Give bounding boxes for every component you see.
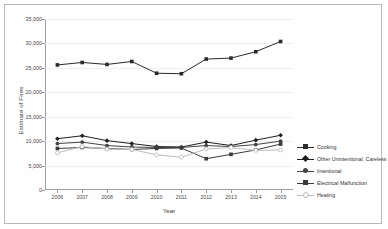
x-tick-label: 2014 xyxy=(250,194,262,200)
y-tick-mark xyxy=(42,190,45,191)
legend-label: Other Unintentional, Careless xyxy=(317,156,386,162)
y-tick-label: 35,000 xyxy=(26,16,43,22)
x-tick-mark xyxy=(281,190,282,193)
x-tick-label: 2013 xyxy=(225,194,237,200)
y-tick-label: 15,000 xyxy=(26,114,43,120)
x-tick-label: 2015 xyxy=(275,194,287,200)
y-tick-label: 30,000 xyxy=(26,40,43,46)
legend-marker-icon xyxy=(297,167,314,176)
legend-marker-icon xyxy=(297,179,314,188)
x-tick-label: 2012 xyxy=(200,194,212,200)
x-tick-mark xyxy=(256,190,257,193)
chart-legend: CookingOther Unintentional, CarelessInte… xyxy=(297,141,388,201)
legend-item[interactable]: Intentional xyxy=(297,165,388,177)
legend-item[interactable]: Cooking xyxy=(297,141,388,153)
series-1 xyxy=(56,40,283,76)
legend-marker-icon xyxy=(297,155,314,164)
x-tick-label: 2010 xyxy=(151,194,163,200)
x-tick-mark xyxy=(181,190,182,193)
legend-item[interactable]: Heating xyxy=(297,189,388,201)
x-tick-label: 2011 xyxy=(176,194,187,200)
x-tick-mark xyxy=(157,190,158,193)
y-axis-title: Estimate of Fires xyxy=(9,59,21,169)
x-tick-label: 2006 xyxy=(52,194,64,200)
x-tick-mark xyxy=(82,190,83,193)
legend-label: Heating xyxy=(317,192,335,198)
x-tick-mark xyxy=(132,190,133,193)
y-tick-label: 25,000 xyxy=(26,65,43,71)
legend-label: Electrical Malfunction xyxy=(317,180,367,186)
legend-item[interactable]: Other Unintentional, Careless xyxy=(297,153,388,165)
x-tick-label: 2008 xyxy=(101,194,113,200)
y-tick-label: 5,000 xyxy=(29,163,43,169)
legend-marker-icon xyxy=(297,143,314,152)
chart-frame: Estimate of Fires 05,00010,00015,00020,0… xyxy=(4,4,382,224)
legend-label: Intentional xyxy=(317,168,341,174)
y-tick-label: 10,000 xyxy=(26,138,43,144)
y-tick-label: 0 xyxy=(39,187,42,193)
x-tick-mark xyxy=(107,190,108,193)
x-tick-mark xyxy=(206,190,207,193)
x-tick-label: 2007 xyxy=(76,194,88,200)
y-tick-label: 20,000 xyxy=(26,89,43,95)
legend-marker-icon xyxy=(297,191,314,200)
x-axis-title: Year xyxy=(45,207,293,214)
x-tick-mark xyxy=(57,190,58,193)
legend-label: Cooking xyxy=(317,144,336,150)
series-lines xyxy=(45,19,293,190)
legend-item[interactable]: Electrical Malfunction xyxy=(297,177,388,189)
x-tick-mark xyxy=(231,190,232,193)
plot-area: 05,00010,00015,00020,00025,00030,00035,0… xyxy=(45,19,293,190)
x-tick-label: 2009 xyxy=(126,194,138,200)
